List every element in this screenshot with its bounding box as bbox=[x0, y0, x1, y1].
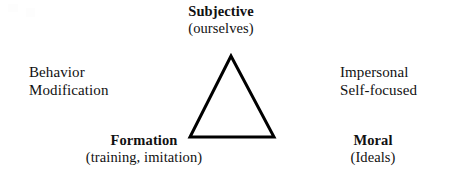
triangle-shape bbox=[184, 50, 280, 143]
base-right-label: Moral (Ideals) bbox=[330, 132, 416, 166]
right-flank-text: Impersonal Self-focused bbox=[340, 64, 417, 99]
diagram-canvas: Subjective (ourselves) Behavior Modifica… bbox=[0, 0, 452, 184]
left-flank-text: Behavior Modification bbox=[29, 64, 109, 99]
base-right-label-title: Moral bbox=[330, 132, 416, 149]
triangle-outline bbox=[190, 56, 274, 137]
apex-label: Subjective (ourselves) bbox=[0, 3, 452, 37]
triangle-svg bbox=[184, 50, 280, 143]
right-flank-line-2: Self-focused bbox=[340, 82, 417, 100]
left-flank-line-1: Behavior bbox=[29, 64, 109, 82]
base-left-label-subtitle: (training, imitation) bbox=[72, 149, 216, 166]
left-flank-line-2: Modification bbox=[29, 82, 109, 100]
base-right-label-subtitle: (Ideals) bbox=[330, 149, 416, 166]
apex-label-title: Subjective bbox=[0, 3, 447, 20]
right-flank-line-1: Impersonal bbox=[340, 64, 417, 82]
apex-label-subtitle: (ourselves) bbox=[0, 20, 447, 37]
base-left-label: Formation (training, imitation) bbox=[72, 132, 216, 166]
base-left-label-title: Formation bbox=[72, 132, 216, 149]
